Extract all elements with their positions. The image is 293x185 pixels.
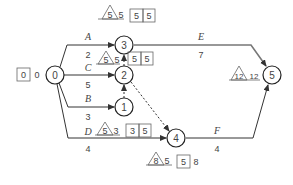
times-node-5: 12 12 (229, 66, 260, 81)
svg-text:5: 5 (146, 11, 151, 21)
activity-b-name: B (85, 93, 91, 104)
node-1: 1 (115, 98, 133, 116)
svg-text:5: 5 (118, 10, 123, 20)
svg-text:1: 1 (121, 102, 127, 113)
activity-d-name: D (83, 126, 92, 137)
times-node-1: 5 3 3 5 (95, 122, 151, 137)
activity-f-name: F (213, 125, 221, 136)
svg-text:3: 3 (113, 126, 118, 136)
svg-text:8: 8 (153, 156, 158, 166)
svg-text:8: 8 (193, 157, 198, 167)
activity-a-name: A (84, 31, 92, 42)
svg-text:5: 5 (181, 157, 186, 167)
node-5: 5 (263, 66, 281, 84)
edge-d (57, 84, 166, 138)
svg-text:3: 3 (121, 40, 127, 51)
svg-text:5: 5 (164, 156, 169, 166)
activity-c-name: C (85, 62, 92, 73)
node-2: 2 (115, 66, 133, 84)
svg-text:5: 5 (114, 55, 119, 65)
node-3: 3 (115, 36, 133, 54)
edge-f (186, 85, 268, 138)
svg-text:4: 4 (173, 133, 179, 144)
times-node-0: 0 0 (17, 68, 40, 81)
activity-d-duration: 4 (85, 144, 90, 154)
activity-e-duration: 7 (198, 50, 203, 60)
times-node-3: 5 5 5 5 (98, 5, 155, 22)
network-diagram: A 2 C 5 B 3 D 4 E 7 F 4 0 1 2 3 4 5 0 0 (0, 0, 293, 185)
svg-text:5: 5 (102, 126, 107, 136)
activity-e-name: E (197, 31, 204, 42)
activity-a-duration: 2 (85, 50, 90, 60)
activity-b-duration: 3 (85, 112, 90, 122)
svg-text:12: 12 (235, 72, 244, 81)
svg-text:2: 2 (121, 70, 127, 81)
svg-text:3: 3 (130, 126, 135, 136)
node-4: 4 (167, 129, 185, 147)
svg-text:5: 5 (134, 11, 139, 21)
svg-text:5: 5 (142, 126, 147, 136)
svg-text:0: 0 (21, 70, 26, 80)
svg-text:0: 0 (34, 70, 39, 80)
activity-c-duration: 5 (85, 80, 90, 90)
svg-text:5: 5 (107, 10, 112, 20)
svg-text:5: 5 (132, 54, 137, 64)
svg-text:5: 5 (144, 54, 149, 64)
svg-text:5: 5 (103, 55, 108, 65)
svg-text:12: 12 (250, 72, 259, 81)
node-0: 0 (46, 66, 64, 84)
activity-f-duration: 4 (214, 144, 219, 154)
svg-text:0: 0 (52, 70, 58, 81)
times-node-4: 8 5 5 8 (146, 152, 199, 168)
svg-text:5: 5 (269, 70, 275, 81)
